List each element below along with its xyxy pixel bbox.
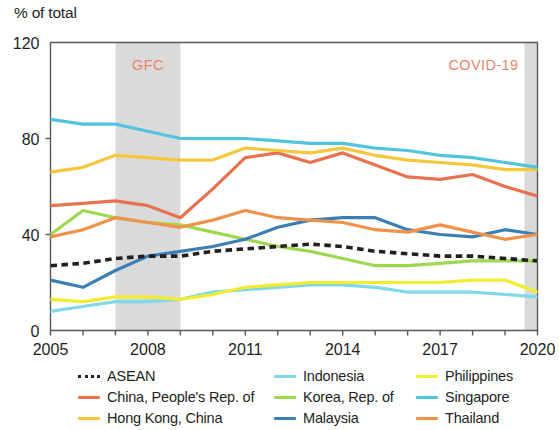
- band-label-gfc: GFC: [132, 57, 164, 73]
- x-tick-label: 2014: [325, 341, 361, 358]
- legend-label-philippines: Philippines: [445, 369, 513, 385]
- x-tick-label: 2005: [33, 341, 69, 358]
- legend-label-indonesia: Indonesia: [303, 369, 364, 385]
- legend-swatch-singapore: [416, 396, 438, 399]
- legend-swatch-thailand: [416, 417, 438, 420]
- legend-label-hongkong: Hong Kong, China: [107, 411, 222, 427]
- legend-item-malaysia[interactable]: Malaysia: [274, 408, 416, 429]
- legend-swatch-malaysia: [274, 417, 296, 420]
- shaded-band-gfc: [115, 43, 180, 331]
- legend-swatch-asean: [78, 375, 100, 378]
- legend-item-china[interactable]: China, People's Rep. of: [78, 387, 274, 408]
- legend-item-singapore[interactable]: Singapore: [416, 387, 559, 408]
- x-tick-label: 2011: [228, 341, 263, 358]
- legend-label-thailand: Thailand: [445, 411, 499, 427]
- legend-item-philippines[interactable]: Philippines: [416, 366, 559, 387]
- legend-item-asean[interactable]: ASEAN: [78, 366, 274, 387]
- x-tick-label: 2020: [520, 341, 556, 358]
- legend-swatch-philippines: [416, 375, 438, 378]
- legend-label-malaysia: Malaysia: [303, 411, 359, 427]
- legend-label-asean: ASEAN: [107, 369, 155, 385]
- chart-legend: ASEANIndonesiaPhilippinesChina, People's…: [0, 366, 559, 430]
- legend-label-china: China, People's Rep. of: [107, 390, 254, 406]
- legend-label-korea: Korea, Rep. of: [303, 390, 394, 406]
- y-tick-label: 120: [13, 35, 40, 52]
- legend-swatch-china: [78, 396, 100, 399]
- plot-area: GFCCOVID-1904080120200520082011201420172…: [0, 0, 559, 360]
- legend-swatch-hongkong: [78, 417, 100, 420]
- line-chart: GFCCOVID-1904080120200520082011201420172…: [0, 0, 559, 360]
- legend-item-korea[interactable]: Korea, Rep. of: [274, 387, 416, 408]
- x-tick-label: 2008: [130, 341, 166, 358]
- legend-item-thailand[interactable]: Thailand: [416, 408, 559, 429]
- x-tick-label: 2017: [422, 341, 458, 358]
- legend-item-indonesia[interactable]: Indonesia: [274, 366, 416, 387]
- y-tick-label: 40: [22, 227, 40, 244]
- y-tick-label: 0: [31, 323, 40, 340]
- y-tick-label: 80: [22, 131, 40, 148]
- band-label-covid: COVID-19: [448, 57, 518, 73]
- legend-item-hongkong[interactable]: Hong Kong, China: [78, 408, 274, 429]
- legend-swatch-indonesia: [274, 375, 296, 378]
- legend-swatch-korea: [274, 396, 296, 399]
- legend-label-singapore: Singapore: [445, 390, 509, 406]
- figure: % of total GFCCOVID-19040801202005200820…: [0, 0, 559, 430]
